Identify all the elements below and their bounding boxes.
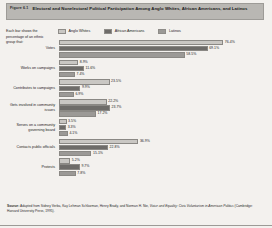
source-label: Source: [7, 204, 19, 208]
bar-value-label: 76.4% [225, 41, 235, 45]
chart-group: Contributes to campaigns23.5%9.9%6.9% [6, 79, 264, 97]
bar-value-label: 22.8% [110, 146, 120, 150]
bar [59, 158, 70, 163]
legend-item: African Americans [104, 29, 144, 34]
bar-row: 7.4% [59, 72, 264, 77]
bar [59, 79, 110, 84]
bar-row: 17.2% [59, 111, 264, 116]
bar-row: 36.9% [59, 139, 264, 144]
bar [59, 119, 67, 124]
legend-item: Latinos [158, 29, 180, 34]
figure-container: Figure 6.1 Electoral and Nonelectoral Po… [0, 0, 272, 228]
bar-value-label: 9.9% [82, 86, 90, 90]
bar [59, 66, 84, 71]
chart-group: Serves on a community governing board3.5… [6, 119, 264, 137]
bar [59, 40, 223, 45]
legend-swatch-icon [158, 29, 166, 34]
bar [59, 52, 185, 57]
category-label: Protests [6, 165, 58, 171]
chart-group: Votes76.4%69.1%58.5% [6, 40, 264, 58]
bar [59, 72, 75, 77]
bar [59, 99, 107, 104]
bar-row: 9.7% [59, 164, 264, 169]
bar-row: 76.4% [59, 40, 264, 45]
bar [59, 151, 91, 156]
bar-row: 69.1% [59, 46, 264, 51]
bar-stack: 22.2%23.7%17.2% [58, 99, 264, 117]
bar-value-label: 23.7% [112, 106, 122, 110]
chart-legend: Anglo WhitesAfrican AmericansLatinos [58, 29, 181, 34]
bar-value-label: 7.4% [77, 73, 85, 77]
figure-title-bar: Figure 6.1 Electoral and Nonelectoral Po… [6, 3, 264, 20]
bar-row: 23.5% [59, 79, 264, 84]
bar [59, 46, 208, 51]
source-text-pre: Adapted from Sidney Verba, Kay Lehman Sc… [19, 204, 149, 208]
bar-row: 7.8% [59, 171, 264, 176]
bar [59, 131, 68, 136]
chart-group: Protests5.2%9.7%7.8% [6, 158, 264, 176]
category-label: Serves on a community governing board [6, 123, 58, 134]
bar-value-label: 3.3% [68, 126, 76, 130]
figure-source: Source: Adapted from Sidney Verba, Kay L… [7, 204, 257, 215]
bar-value-label: 17.2% [98, 112, 108, 116]
bar-value-label: 58.5% [186, 53, 196, 57]
bar [59, 86, 80, 91]
category-label: Contributes to campaigns [6, 86, 58, 92]
bar-row: 11.6% [59, 66, 264, 71]
bar-stack: 3.5%3.3%4.1% [58, 119, 264, 137]
bar-row: 22.8% [59, 145, 264, 150]
bar-row: 23.7% [59, 105, 264, 110]
category-label: Contacts public officials [6, 145, 58, 151]
bar [59, 171, 76, 176]
bar-value-label: 9.7% [81, 165, 89, 169]
bar-row: 9.9% [59, 86, 264, 91]
figure-number: Figure 6.1 [10, 6, 28, 11]
category-label: Gets involved in community issues [6, 103, 58, 114]
bar [59, 164, 80, 169]
bar-value-label: 8.9% [80, 61, 88, 65]
bar-row: 22.2% [59, 99, 264, 104]
legend-label: African Americans [115, 29, 145, 33]
bar-value-label: 7.8% [77, 172, 85, 176]
bar-value-label: 5.2% [72, 159, 80, 163]
bar-row: 58.5% [59, 52, 264, 57]
bar-stack: 36.9%22.8%15.1% [58, 139, 264, 157]
category-label: Works on campaigns [6, 66, 58, 72]
bar-row: 4.1% [59, 131, 264, 136]
bar-stack: 76.4%69.1%58.5% [58, 40, 264, 58]
bar-row: 3.5% [59, 119, 264, 124]
legend-swatch-icon [104, 29, 112, 34]
bar [59, 125, 66, 130]
chart-group: Contacts public officials36.9%22.8%15.1% [6, 139, 264, 157]
source-book-title: Voice and Equality: Civic Voluntarism in… [150, 204, 234, 208]
legend-item: Anglo Whites [58, 29, 90, 34]
bar [59, 105, 110, 110]
legend-swatch-icon [58, 29, 66, 34]
bar-value-label: 4.1% [69, 132, 77, 136]
bar-stack: 23.5%9.9%6.9% [58, 79, 264, 97]
bar [59, 111, 96, 116]
bottom-divider [0, 225, 272, 226]
bar-value-label: 69.1% [209, 47, 219, 51]
bar-value-label: 36.9% [140, 140, 150, 144]
bar [59, 139, 138, 144]
bar-stack: 8.9%11.6%7.4% [58, 60, 264, 78]
bar [59, 60, 78, 65]
bar-value-label: 3.5% [68, 120, 76, 124]
bar [59, 145, 108, 150]
chart-group: Works on campaigns8.9%11.6%7.4% [6, 60, 264, 78]
chart-group: Gets involved in community issues22.2%23… [6, 99, 264, 117]
figure-title: Electoral and Nonelectoral Political Par… [32, 6, 247, 12]
bar-value-label: 22.2% [108, 100, 118, 104]
bar-value-label: 15.1% [93, 152, 103, 156]
bar-row: 3.3% [59, 125, 264, 130]
bar-row: 5.2% [59, 158, 264, 163]
chart-plot-area: Votes76.4%69.1%58.5%Works on campaigns8.… [6, 40, 264, 200]
bar-stack: 5.2%9.7%7.8% [58, 158, 264, 176]
bar-row: 8.9% [59, 60, 264, 65]
bar-row: 15.1% [59, 151, 264, 156]
bar-value-label: 23.5% [111, 80, 121, 84]
bar [59, 92, 74, 97]
bar-value-label: 6.9% [75, 93, 83, 97]
legend-label: Anglo Whites [69, 29, 91, 33]
